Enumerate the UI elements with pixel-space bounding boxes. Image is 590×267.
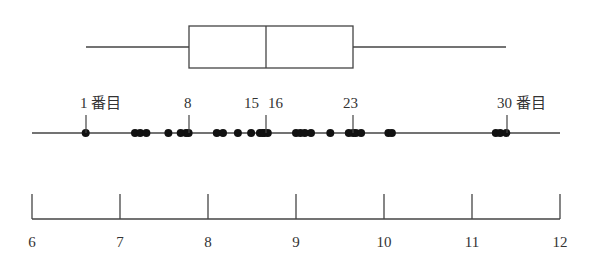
label-twentythird: 23 xyxy=(343,95,358,111)
tick-label-8: 8 xyxy=(204,234,212,250)
data-point xyxy=(234,129,242,137)
label-eighth: 8 xyxy=(184,95,192,111)
x-tick-labels: 6 7 8 9 10 11 12 xyxy=(28,234,567,250)
tick-label-10: 10 xyxy=(377,234,392,250)
label-fifteenth: 15 xyxy=(244,95,259,111)
label-sixteenth: 16 xyxy=(268,95,284,111)
data-point xyxy=(502,129,510,137)
tick-label-9: 9 xyxy=(292,234,300,250)
data-point xyxy=(357,129,365,137)
tick-label-11: 11 xyxy=(465,234,479,250)
label-first: 1 番目 xyxy=(80,95,121,111)
box xyxy=(189,26,353,68)
data-point xyxy=(307,129,315,137)
label-thirtieth: 30 番目 xyxy=(497,95,546,111)
chart-canvas: 1 番目 8 15 16 23 30 番目 6 7 8 9 10 11 12 xyxy=(0,0,590,267)
data-point xyxy=(219,129,227,137)
data-point xyxy=(326,129,334,137)
tick-label-6: 6 xyxy=(28,234,36,250)
data-point xyxy=(164,129,172,137)
data-point xyxy=(264,129,272,137)
data-point xyxy=(247,129,255,137)
tick-label-7: 7 xyxy=(116,234,124,250)
dot-plot: 1 番目 8 15 16 23 30 番目 xyxy=(32,95,560,137)
data-point xyxy=(388,129,396,137)
data-point xyxy=(142,129,150,137)
tick-label-12: 12 xyxy=(553,234,568,250)
box-plot xyxy=(86,26,506,68)
x-axis xyxy=(32,194,560,219)
